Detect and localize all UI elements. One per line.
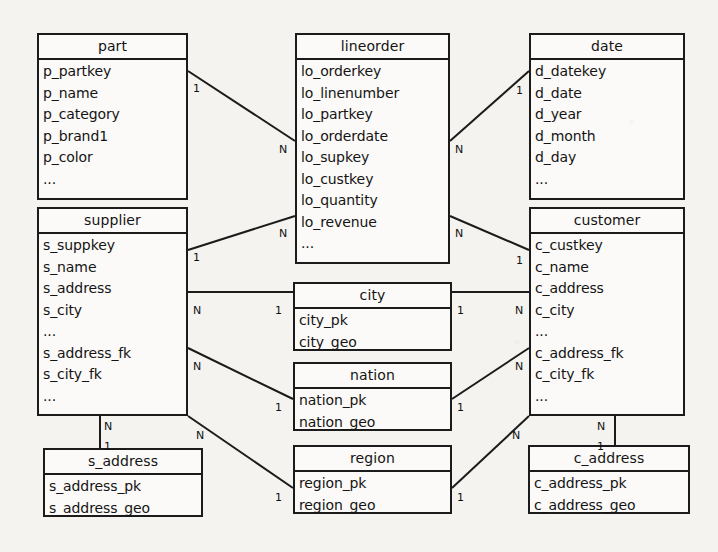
entity-field: c_address_pk xyxy=(534,473,688,495)
cardinality-label: N xyxy=(515,361,523,372)
entity-field: city_pk xyxy=(299,310,450,332)
relationship-line xyxy=(452,416,529,488)
entity-title: s_address xyxy=(45,450,201,475)
entity-field: nation_pk xyxy=(299,390,450,412)
entity-box-c_address[interactable]: c_addressc_address_pkc_address_geo xyxy=(528,445,690,514)
entity-box-date[interactable]: dated_datekeyd_dated_yeard_monthd_day... xyxy=(529,33,685,200)
cardinality-label: N xyxy=(279,144,287,155)
cardinality-label: N xyxy=(193,305,201,316)
entity-title: lineorder xyxy=(297,35,448,60)
entity-field: d_month xyxy=(535,126,683,148)
entity-field: lo_supkey xyxy=(301,147,448,169)
entity-field: p_brand1 xyxy=(43,126,186,148)
cardinality-label: 1 xyxy=(457,492,464,503)
cardinality-label: N xyxy=(279,228,287,239)
relationship-line xyxy=(188,416,293,488)
entity-field: p_color xyxy=(43,147,186,169)
cardinality-label: 1 xyxy=(275,492,282,503)
entity-title: part xyxy=(39,35,186,60)
entity-field-list: lo_orderkeylo_linenumberlo_partkeylo_ord… xyxy=(297,60,448,257)
entity-title: region xyxy=(295,447,450,472)
entity-title: city xyxy=(295,284,450,309)
entity-field-list: city_pkcity_geo xyxy=(295,309,450,355)
entity-field: lo_orderkey xyxy=(301,61,448,83)
entity-field: c_city xyxy=(535,300,683,322)
entity-box-lineorder[interactable]: lineorderlo_orderkeylo_linenumberlo_part… xyxy=(295,33,450,264)
entity-field: d_day xyxy=(535,147,683,169)
entity-field-list: nation_pknation_geo xyxy=(295,389,450,435)
entity-field: region_geo xyxy=(299,495,450,517)
entity-box-nation[interactable]: nationnation_pknation_geo xyxy=(293,362,452,431)
cardinality-label: 1 xyxy=(275,402,282,413)
entity-field: p_category xyxy=(43,104,186,126)
entity-field: s_city_fk xyxy=(43,364,186,386)
cardinality-label: N xyxy=(196,430,204,441)
entity-box-city[interactable]: citycity_pkcity_geo xyxy=(293,282,452,351)
entity-field-list: s_suppkeys_names_addresss_city...s_addre… xyxy=(39,234,186,409)
entity-field: c_address_geo xyxy=(534,495,688,517)
entity-field: city_geo xyxy=(299,332,450,354)
entity-field: ... xyxy=(43,169,186,191)
entity-box-customer[interactable]: customerc_custkeyc_namec_addressc_city..… xyxy=(529,207,685,416)
entity-field: region_pk xyxy=(299,473,450,495)
relationship-line xyxy=(450,71,529,141)
entity-field: ... xyxy=(535,321,683,343)
entity-field-list: c_custkeyc_namec_addressc_city...c_addre… xyxy=(531,234,683,409)
entity-field: lo_quantity xyxy=(301,190,448,212)
entity-field: s_name xyxy=(43,257,186,279)
cardinality-label: 1 xyxy=(516,85,523,96)
cardinality-label: N xyxy=(193,361,201,372)
entity-box-region[interactable]: regionregion_pkregion_geo xyxy=(293,445,452,514)
entity-field: s_suppkey xyxy=(43,235,186,257)
entity-title: supplier xyxy=(39,209,186,234)
cardinality-label: 1 xyxy=(193,83,200,94)
entity-field: c_custkey xyxy=(535,235,683,257)
entity-field: ... xyxy=(43,386,186,408)
entity-field: p_name xyxy=(43,83,186,105)
cardinality-label: 1 xyxy=(597,441,604,452)
cardinality-label: N xyxy=(597,421,605,432)
entity-field: ... xyxy=(301,233,448,255)
entity-field: lo_partkey xyxy=(301,104,448,126)
entity-field: lo_linenumber xyxy=(301,83,448,105)
entity-title: date xyxy=(531,35,683,60)
er-diagram-canvas: partp_partkeyp_namep_categoryp_brand1p_c… xyxy=(0,0,718,552)
entity-field: s_address xyxy=(43,278,186,300)
entity-title: nation xyxy=(295,364,450,389)
entity-field: lo_orderdate xyxy=(301,126,448,148)
cardinality-label: 1 xyxy=(275,305,282,316)
entity-box-s_address[interactable]: s_addresss_address_pks_address_geo xyxy=(43,448,203,517)
entity-field: c_address xyxy=(535,278,683,300)
entity-field-list: s_address_pks_address_geo xyxy=(45,475,201,521)
cardinality-label: 1 xyxy=(104,441,111,452)
entity-field: p_partkey xyxy=(43,61,186,83)
entity-field: d_date xyxy=(535,83,683,105)
entity-title: customer xyxy=(531,209,683,234)
entity-field: s_address_fk xyxy=(43,343,186,365)
relationship-line xyxy=(452,348,529,399)
entity-field: s_address_geo xyxy=(49,498,201,520)
entity-field: lo_custkey xyxy=(301,169,448,191)
entity-field: s_city xyxy=(43,300,186,322)
entity-field: ... xyxy=(43,321,186,343)
entity-box-supplier[interactable]: suppliers_suppkeys_names_addresss_city..… xyxy=(37,207,188,416)
cardinality-label: N xyxy=(515,305,523,316)
entity-field: d_datekey xyxy=(535,61,683,83)
cardinality-label: 1 xyxy=(457,305,464,316)
relationship-line xyxy=(188,71,295,141)
entity-field-list: d_datekeyd_dated_yeard_monthd_day... xyxy=(531,60,683,192)
entity-field: lo_revenue xyxy=(301,212,448,234)
cardinality-label: N xyxy=(104,421,112,432)
entity-field-list: region_pkregion_geo xyxy=(295,472,450,518)
cardinality-label: 1 xyxy=(516,255,523,266)
entity-title: c_address xyxy=(530,447,688,472)
entity-box-part[interactable]: partp_partkeyp_namep_categoryp_brand1p_c… xyxy=(37,33,188,200)
entity-field: c_name xyxy=(535,257,683,279)
entity-field: c_address_fk xyxy=(535,343,683,365)
entity-field: s_address_pk xyxy=(49,476,201,498)
cardinality-label: N xyxy=(455,228,463,239)
cardinality-label: N xyxy=(455,144,463,155)
cardinality-label: 1 xyxy=(457,402,464,413)
entity-field: d_year xyxy=(535,104,683,126)
entity-field: nation_geo xyxy=(299,412,450,434)
